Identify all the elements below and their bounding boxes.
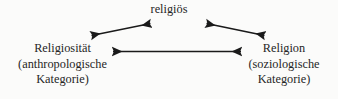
arrow-religioes-religion xyxy=(207,24,265,36)
node-religion-line-3: Kategorie) xyxy=(232,72,336,88)
node-religiositaet-line-3: Kategorie) xyxy=(2,72,123,88)
arrow-religiositaet-religioes xyxy=(92,24,151,36)
node-religioes-line-1: religiös xyxy=(129,2,209,18)
node-religion-line-2: (soziologische xyxy=(232,57,336,73)
node-religiositaet-line-2: (anthropologische xyxy=(2,57,123,73)
node-religion-line-1: Religion xyxy=(232,41,336,57)
node-religioes: religiös xyxy=(129,2,209,18)
node-religion: Religion (soziologische Kategorie) xyxy=(232,41,336,88)
node-religiositaet-line-1: Religiosität xyxy=(2,41,123,57)
relationship-diagram: religiös Religiosität (anthropologische … xyxy=(0,0,338,99)
node-religiositaet: Religiosität (anthropologische Kategorie… xyxy=(2,41,123,88)
